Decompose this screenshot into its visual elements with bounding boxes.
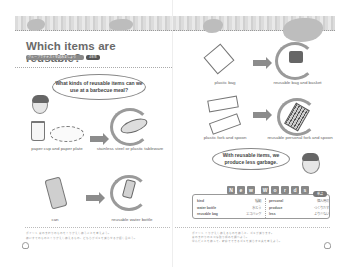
subtitle-text: グループでテキストを読みましょう: [26, 55, 84, 60]
footnote-line: ポイント 身のまわりのものをくりかえし使うことを考えよう。: [26, 231, 111, 235]
arrow-right-icon: [253, 60, 267, 66]
header-letter: W: [261, 186, 269, 194]
boy-avatar: [32, 96, 48, 114]
item-label: reusable personal fork and spoon: [265, 135, 335, 141]
page-title: Which items are reusable?: [26, 40, 172, 64]
speech-bubble: With reusable items, we produce less gar…: [212, 148, 290, 170]
words-column-right: personal 個人用の produce つくりだす less より少ない: [265, 198, 329, 218]
word-english: reusable bag: [197, 211, 218, 218]
decorative-header-band: [15, 16, 172, 31]
leaf-illustration: [283, 18, 323, 42]
new-words-box: 単語 kind 種類 water bottle 水とう reusable bag…: [192, 194, 330, 219]
footnote-line: 学んだことを使って、家庭でできるゴミを減らす工夫を考えよう。: [192, 239, 282, 243]
words-badge: 単語: [313, 191, 327, 197]
footnote-divider: [25, 227, 170, 228]
word-japanese: エコバッグ: [246, 211, 261, 218]
grade-tag: 4年生: [86, 55, 100, 60]
header-letter: r: [281, 186, 289, 194]
item-label: reusable bag and basket: [270, 80, 325, 86]
subtitle-bar: グループでテキストを読みましょう: [26, 55, 84, 60]
header-letter: w: [247, 186, 255, 194]
leaf-illustration: [27, 19, 45, 31]
footnote-divider: [175, 227, 330, 228]
word-row: less より少ない: [269, 211, 329, 218]
header-letter: o: [271, 186, 279, 194]
speech-bubble: What kinds of reusable items can we use …: [52, 74, 146, 100]
words-column-left: kind 種類 water bottle 水とう reusable bag エコ…: [197, 198, 261, 218]
basket-icon: [289, 51, 303, 63]
decorative-header-band: [173, 16, 335, 31]
item-label: can: [30, 217, 80, 223]
item-label: paper cup and paper plate: [22, 146, 92, 152]
leaf-illustration: [203, 19, 223, 33]
leaf-illustration: [109, 19, 133, 31]
item-label: plastic bag: [200, 80, 250, 86]
arrow-right-icon: [253, 112, 267, 118]
header-letter: s: [301, 186, 309, 194]
new-words-header: N e w W o r d s: [227, 186, 309, 194]
header-letter: d: [291, 186, 299, 194]
arrow-right-icon: [90, 136, 104, 142]
recycle-page-icon: [324, 242, 331, 249]
word-japanese: より少ない: [314, 211, 329, 218]
word-english: less: [269, 211, 276, 218]
header-letter: N: [227, 186, 235, 194]
girl-avatar: [302, 154, 320, 174]
paper-plate-icon: [50, 126, 84, 142]
item-label: stainless steel or plastic tableware: [95, 146, 165, 152]
arrow-right-icon: [86, 195, 100, 201]
word-row: reusable bag エコバッグ: [197, 211, 261, 218]
item-label: reusable water bottle: [97, 217, 167, 223]
divider: [15, 67, 172, 68]
item-label: plastic fork and spoon: [195, 135, 255, 141]
paper-cup-icon: [31, 121, 45, 141]
footnote-line: 使いすてのものとくりかえし使えるもの、どちらがゴミを減らせるか話し合おう。: [26, 236, 137, 240]
header-letter: e: [237, 186, 245, 194]
recycle-page-icon: [22, 242, 29, 249]
